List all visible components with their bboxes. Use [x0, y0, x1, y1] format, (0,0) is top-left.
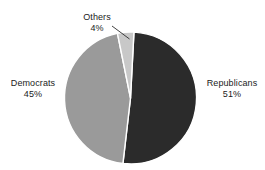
- slice-label-democrats-value: 45%: [2, 89, 64, 100]
- slice-label-others-name: Others: [64, 12, 130, 23]
- pie-slice-republicans: [123, 32, 197, 164]
- pie-chart-figure: Others 4% Democrats 45% Republicans 51%: [0, 0, 265, 170]
- pie-slice-democrats: [64, 33, 130, 163]
- slice-label-others-value: 4%: [64, 23, 130, 34]
- slice-label-democrats: Democrats 45%: [2, 78, 64, 100]
- slice-label-republicans: Republicans 51%: [199, 78, 265, 100]
- pie-slice-group: [64, 32, 196, 164]
- slice-label-democrats-name: Democrats: [2, 78, 64, 89]
- slice-label-republicans-name: Republicans: [199, 78, 265, 89]
- slice-label-republicans-value: 51%: [199, 89, 265, 100]
- slice-label-others: Others 4%: [64, 12, 130, 34]
